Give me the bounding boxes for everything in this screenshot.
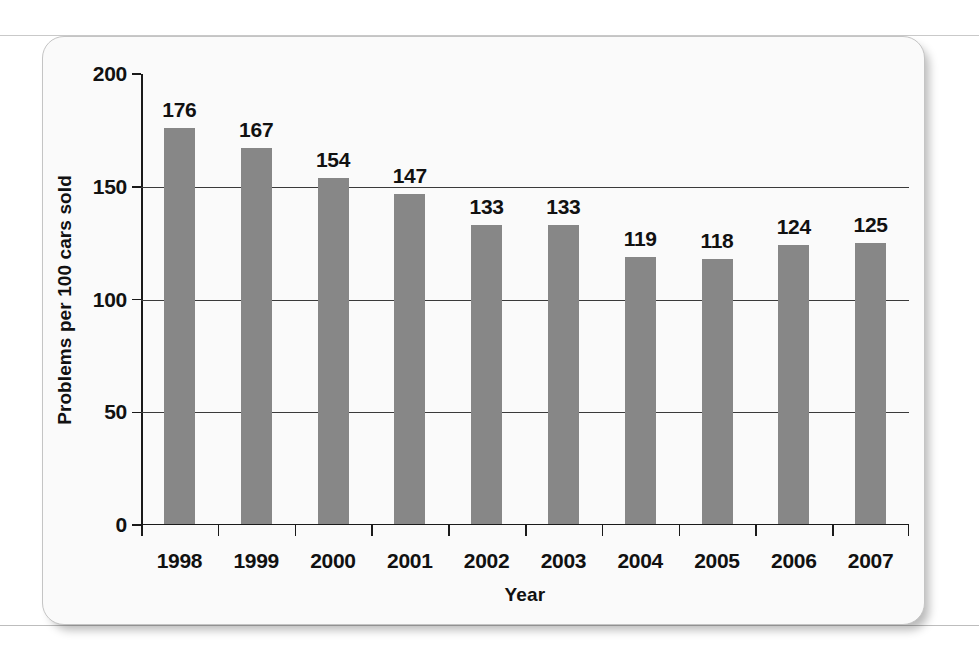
bar-value-label: 125 [854,213,888,237]
bar[interactable] [394,194,425,524]
y-axis-title: Problems per 100 cars sold [54,175,76,425]
x-tick-label: 1999 [233,549,279,573]
x-tick-label: 2007 [848,549,894,573]
y-tick-label: 100 [93,288,127,312]
x-tick-label: 2004 [617,549,663,573]
x-tick-mark [141,525,143,536]
bar[interactable] [471,225,502,523]
x-tick-mark [755,525,757,536]
bar-value-label: 147 [393,164,427,188]
bar[interactable] [855,243,886,523]
y-tick-label: 0 [116,513,127,537]
bar[interactable] [778,245,809,523]
x-tick-mark [218,525,220,536]
x-tick-mark [832,525,834,536]
bar-value-label: 133 [546,195,580,219]
x-axis-title: Year [141,584,909,606]
x-tick-label: 2000 [310,549,356,573]
x-tick-mark [602,525,604,536]
bar-value-label: 133 [470,195,504,219]
bar[interactable] [241,148,272,523]
x-tick-mark [448,525,450,536]
figure-card: Problems per 100 cars sold Year 05010015… [42,36,925,625]
x-tick-label: 2003 [541,549,587,573]
x-tick-label: 1998 [157,549,203,573]
y-tick-mark [132,412,141,414]
bar[interactable] [625,257,656,524]
y-tick-mark [132,299,141,301]
y-tick-label: 50 [104,400,127,424]
bar-value-label: 176 [162,98,196,122]
bar-value-label: 124 [777,215,811,239]
bar[interactable] [702,259,733,524]
x-tick-label: 2002 [464,549,510,573]
bar-value-label: 119 [624,227,657,251]
y-tick-label: 150 [93,175,127,199]
bar-value-label: 167 [239,118,273,142]
bar[interactable] [164,128,195,523]
x-tick-mark [679,525,681,536]
bar-chart-plot-area: Problems per 100 cars sold Year 05010015… [141,74,909,525]
y-tick-mark [132,73,141,75]
page-rule-bottom [0,625,979,626]
x-tick-mark [371,525,373,536]
x-tick-label: 2006 [771,549,817,573]
x-tick-mark [295,525,297,536]
x-tick-mark [525,525,527,536]
bar[interactable] [318,178,349,524]
x-tick-mark [908,525,910,536]
y-tick-mark [132,524,141,526]
bar[interactable] [548,225,579,523]
bar-value-label: 118 [701,229,734,253]
bar-value-label: 154 [316,148,350,172]
x-tick-label: 2001 [387,549,433,573]
x-tick-label: 2005 [694,549,740,573]
y-tick-mark [132,186,141,188]
y-tick-label: 200 [93,62,127,86]
